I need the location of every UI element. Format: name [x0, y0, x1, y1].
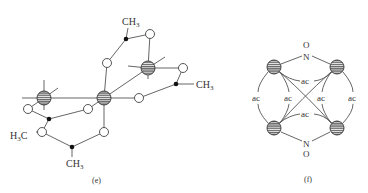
metal-atom [330, 60, 344, 74]
metal-atom [97, 91, 111, 105]
label-ac-top: ac [301, 76, 309, 86]
panel-f: O N N O ac ac ac ac ac ac (f) [252, 40, 356, 184]
atom-black-dot [47, 117, 52, 122]
label-ac-right-inner: ac [317, 93, 325, 103]
label-n-bottom: N [303, 139, 310, 149]
atom-black-dot [174, 82, 179, 87]
atom-open-circle [135, 94, 144, 103]
atom-open-circle [146, 30, 155, 39]
atom-open-circle [100, 128, 109, 137]
caption-e: (e) [92, 176, 101, 185]
label-ch3-bottom: CH3 [66, 158, 84, 171]
label-h3c-left: H3C [10, 130, 28, 143]
atom-black-dot [70, 145, 75, 150]
atom-open-circle [84, 105, 93, 114]
figure: CH3 CH3 H3C CH3 (e) [0, 0, 368, 193]
label-ac-right-outer: ac [348, 93, 356, 103]
label-ch3-right: CH3 [196, 79, 214, 92]
label-ac-left-inner: ac [284, 93, 292, 103]
metal-atom [37, 91, 51, 105]
atom-open-circle [179, 64, 188, 73]
label-ac-bottom: ac [301, 109, 309, 119]
label-o-bottom: O [303, 149, 310, 159]
panel-e: CH3 CH3 H3C CH3 (e) [10, 16, 214, 185]
atom-open-circle [24, 105, 33, 114]
atom-open-circle [103, 59, 112, 68]
label-n-top: N [303, 52, 310, 62]
atom-open-circle [38, 128, 47, 137]
label-ch3-top: CH3 [122, 16, 140, 29]
atom-black-dot [124, 37, 129, 42]
metal-atom [267, 121, 281, 135]
metal-atom [330, 121, 344, 135]
metal-atoms-f [267, 60, 344, 135]
carbon-atoms-e [47, 37, 179, 150]
label-o-top: O [303, 40, 310, 50]
metal-atom [141, 61, 155, 75]
caption-f: (f) [304, 175, 312, 184]
metal-atom [267, 60, 281, 74]
label-ac-left-outer: ac [252, 93, 260, 103]
